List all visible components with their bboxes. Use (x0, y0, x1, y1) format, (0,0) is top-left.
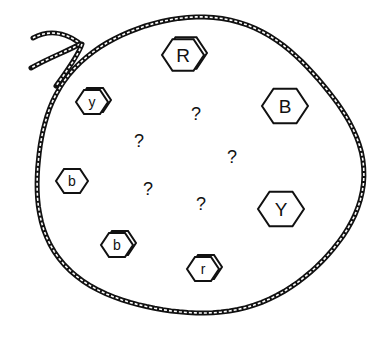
rope-knot-ends (31, 33, 82, 86)
token-label-B: B (279, 97, 292, 116)
token-hexagons (56, 37, 308, 281)
question-mark: ? (227, 148, 237, 166)
token-label-y: y (89, 95, 96, 109)
question-mark: ? (196, 195, 206, 213)
bag-illustration: RyBbYbr ????? (0, 0, 368, 347)
question-mark: ? (134, 132, 144, 150)
token-label-R: R (176, 46, 190, 65)
token-label-r: r (201, 262, 206, 276)
question-mark: ? (143, 180, 153, 198)
question-mark: ? (191, 105, 201, 123)
token-label-Y: Y (275, 200, 288, 219)
token-label-b1: b (68, 174, 76, 188)
token-label-b2: b (113, 238, 121, 252)
